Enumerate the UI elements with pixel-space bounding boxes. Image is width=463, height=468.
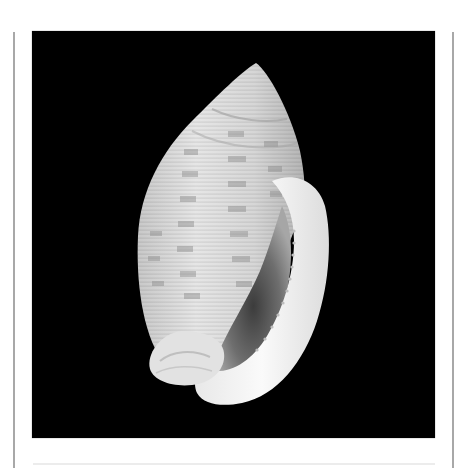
shell-photo: Photograph of a pale, spirally ribbed sh… [32, 31, 435, 438]
left-frame-line [13, 32, 15, 468]
bottom-divider [33, 463, 435, 465]
right-frame-line [452, 32, 454, 468]
shell-illustration [32, 31, 435, 438]
